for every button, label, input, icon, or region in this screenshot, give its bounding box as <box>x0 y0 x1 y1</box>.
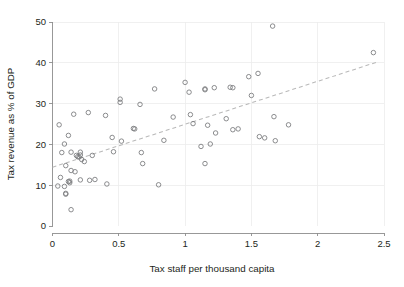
data-point <box>162 138 167 143</box>
data-point <box>272 114 277 119</box>
data-point <box>58 175 63 180</box>
data-point <box>156 183 161 188</box>
data-point <box>64 163 69 168</box>
y-tick-label: 30 <box>35 98 46 109</box>
data-point <box>69 150 74 155</box>
data-point <box>78 178 83 183</box>
y-tick-label: 40 <box>35 57 46 68</box>
data-point <box>236 127 241 132</box>
data-point <box>231 127 236 132</box>
data-point <box>212 85 217 90</box>
y-tick-label: 0 <box>41 220 46 231</box>
y-tick-labels-group: 01020304050 <box>35 16 46 231</box>
data-point <box>62 142 67 147</box>
data-point <box>246 74 251 79</box>
data-point <box>188 112 193 117</box>
data-point <box>73 169 78 174</box>
data-point <box>86 110 91 115</box>
data-point <box>69 207 74 212</box>
data-point <box>199 144 204 149</box>
data-point <box>119 139 124 144</box>
data-point <box>103 113 108 118</box>
y-axis-title: Tax revenue as % of GDP <box>5 67 16 180</box>
data-point <box>56 184 61 189</box>
trend-line <box>53 62 378 167</box>
data-point <box>66 133 71 138</box>
tick-marks-group <box>49 22 384 236</box>
x-tick-label: 0.5 <box>112 238 125 249</box>
x-tick-label: 2 <box>315 238 320 249</box>
data-point <box>203 161 208 166</box>
x-tick-label: 0 <box>50 238 55 249</box>
data-point <box>87 178 92 183</box>
trend-line-group <box>53 62 378 167</box>
x-tick-label: 1 <box>182 238 187 249</box>
data-point <box>256 71 261 76</box>
x-tick-label: 2.5 <box>377 238 390 249</box>
data-point <box>208 142 213 147</box>
data-point <box>273 138 278 143</box>
data-point <box>60 150 64 155</box>
data-point <box>138 102 143 107</box>
data-point <box>171 115 176 120</box>
data-point <box>371 50 376 55</box>
data-point <box>262 136 267 141</box>
data-points-group <box>56 24 376 212</box>
y-tick-label: 50 <box>35 16 46 27</box>
x-tick-labels-group: 00.511.522.5 <box>50 238 391 249</box>
data-point <box>270 24 275 29</box>
data-point <box>187 90 192 95</box>
data-point <box>286 123 291 128</box>
data-point <box>90 153 95 158</box>
data-point <box>213 131 218 136</box>
x-tick-label: 1.5 <box>245 238 258 249</box>
data-point <box>110 135 115 140</box>
data-point <box>152 87 157 92</box>
y-tick-label: 20 <box>35 139 46 150</box>
y-tick-label: 10 <box>35 180 46 191</box>
data-point <box>231 85 236 90</box>
data-point <box>205 123 210 128</box>
data-point <box>224 116 229 121</box>
scatter-plot-figure: 00.511.522.5 01020304050 Tax staff per t… <box>0 0 404 287</box>
x-axis-title: Tax staff per thousand capita <box>149 263 275 274</box>
data-point <box>139 150 144 155</box>
gridlines-group <box>53 22 385 226</box>
data-point <box>71 112 76 117</box>
data-point <box>93 177 98 182</box>
data-point <box>111 149 116 154</box>
data-point <box>57 123 62 128</box>
chart-canvas: 00.511.522.5 01020304050 Tax staff per t… <box>0 0 404 287</box>
data-point <box>257 134 262 139</box>
data-point <box>140 161 145 166</box>
axis-spines-group <box>53 22 385 233</box>
